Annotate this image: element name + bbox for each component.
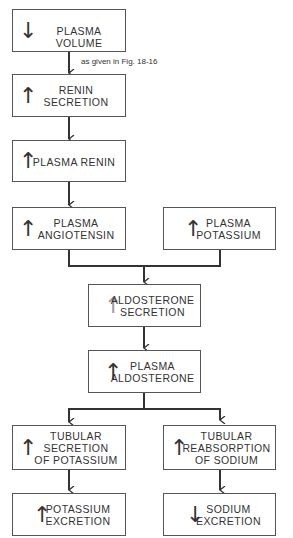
node-label: PLASMA [182, 217, 275, 229]
node-renin-secretion: ↑ RENIN SECRETION [12, 74, 126, 117]
node-plasma-aldosterone: ↑ PLASMA ALDOSTERONE [88, 350, 201, 393]
node-label: OF POTASSIUM [27, 454, 125, 466]
node-label: PLASMA [105, 360, 200, 372]
node-label: EXCRETION [182, 515, 275, 527]
node-tubular-reabsorption-sodium: ↑ TUBULAR REABSORPTION OF SODIUM [163, 425, 276, 470]
node-plasma-angiotensin: ↑ PLASMA ANGIOTENSIN [12, 207, 126, 250]
node-label: SECRETION [27, 442, 125, 454]
node-label: ALDOSTERONE [105, 372, 200, 384]
node-label: OF SODIUM [178, 454, 275, 466]
node-label: REABSORPTION [178, 442, 275, 454]
node-label: POTASSIUM [31, 503, 125, 515]
node-label: EXCRETION [31, 515, 125, 527]
node-label: TUBULAR [178, 430, 275, 442]
node-label: RENIN [27, 84, 125, 96]
node-tubular-secretion-potassium: ↑ TUBULAR SECRETION OF POTASSIUM [12, 425, 126, 470]
node-label: TUBULAR [27, 430, 125, 442]
node-sodium-excretion: ↓ SODIUM EXCRETION [163, 493, 276, 536]
annotation-fig-ref: as given in Fig. 18-16 [81, 57, 158, 66]
node-label: PLASMA RENIN [23, 156, 125, 168]
node-label: POTASSIUM [182, 229, 275, 241]
node-label: SODIUM [182, 503, 275, 515]
node-potassium-excretion: ↑ POTASSIUM EXCRETION [12, 493, 126, 536]
node-plasma-volume: ↓ PLASMA VOLUME [12, 9, 126, 52]
node-label: SECRETION [105, 306, 200, 318]
node-label: SECRETION [27, 96, 125, 108]
node-label: PLASMA [27, 217, 125, 229]
node-label: PLASMA VOLUME [33, 25, 125, 49]
node-label: ALDOSTERONE [105, 294, 200, 306]
node-plasma-potassium: ↑ PLASMA POTASSIUM [163, 207, 276, 250]
node-label: ANGIOTENSIN [27, 229, 125, 241]
node-plasma-renin: ↑ PLASMA RENIN [12, 140, 126, 182]
node-aldosterone-secretion: ↑ ALDOSTERONE SECRETION [88, 284, 201, 327]
